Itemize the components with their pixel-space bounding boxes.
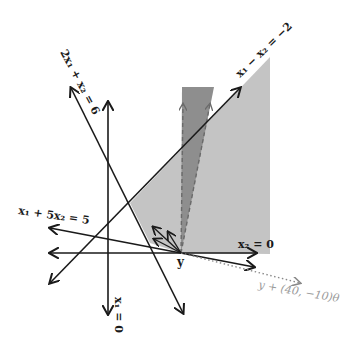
label-x1-plus-5x2: x₁ + 5x₂ = 5 [18, 204, 91, 227]
label-x1-zero: x₁ = 0 [112, 297, 125, 333]
polyhedron-diagram: 2x₁ + x₂ = 6 x₁ − x₂ = −2 x₁ + 5x₂ = 5 x… [0, 0, 353, 350]
label-point-y: y [176, 255, 185, 269]
ray-dotted [181, 253, 300, 283]
label-x2-zero: x₂ = 0 [238, 238, 274, 251]
